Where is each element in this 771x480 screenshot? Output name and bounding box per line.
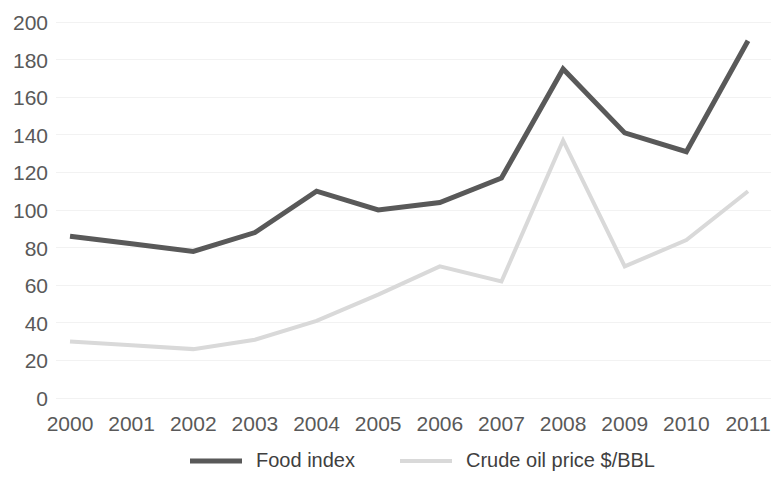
y-axis-tick-label: 0 xyxy=(36,387,48,410)
y-axis-tick-label: 200 xyxy=(13,11,48,34)
series-lines xyxy=(70,41,748,349)
x-axis-tick-label: 2005 xyxy=(355,412,402,435)
y-axis-tick-labels: 020406080100120140160180200 xyxy=(13,11,48,410)
series-line-food-index xyxy=(70,41,748,252)
x-axis-tick-label: 2003 xyxy=(232,412,279,435)
x-axis-tick-label: 2004 xyxy=(293,412,340,435)
chart-canvas: 020406080100120140160180200 200020012002… xyxy=(0,0,771,480)
x-axis-tick-label: 2008 xyxy=(540,412,587,435)
x-axis-tick-label: 2001 xyxy=(108,412,155,435)
x-axis-tick-label: 2011 xyxy=(725,412,770,435)
y-axis-tick-label: 100 xyxy=(13,199,48,222)
chart-legend: Food indexCrude oil price $/BBL xyxy=(190,449,655,471)
x-axis-tick-label: 2006 xyxy=(416,412,463,435)
legend-label: Food index xyxy=(256,449,355,471)
y-axis-tick-label: 20 xyxy=(25,349,48,372)
x-axis-tick-label: 2009 xyxy=(601,412,648,435)
y-axis-tick-label: 160 xyxy=(13,86,48,109)
x-axis-tick-label: 2010 xyxy=(663,412,710,435)
y-axis-tick-label: 80 xyxy=(25,237,48,260)
y-axis-tick-label: 140 xyxy=(13,124,48,147)
y-axis-tick-label: 40 xyxy=(25,312,48,335)
x-axis-tick-label: 2002 xyxy=(170,412,217,435)
x-axis-tick-labels: 2000200120022003200420052006200720082009… xyxy=(47,412,771,435)
x-axis-tick-label: 2007 xyxy=(478,412,525,435)
x-axis-tick-label: 2000 xyxy=(47,412,94,435)
y-axis-tick-label: 60 xyxy=(25,274,48,297)
series-line-crude-oil-price-bbl xyxy=(70,140,748,349)
legend-label: Crude oil price $/BBL xyxy=(466,449,655,471)
line-chart: 020406080100120140160180200 200020012002… xyxy=(0,0,771,480)
y-axis-tick-label: 120 xyxy=(13,161,48,184)
gridlines xyxy=(56,22,771,398)
y-axis-tick-label: 180 xyxy=(13,49,48,72)
